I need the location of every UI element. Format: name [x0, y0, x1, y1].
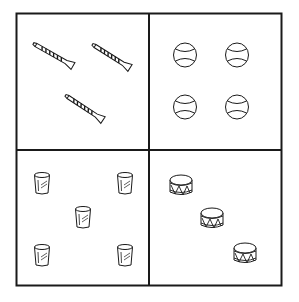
panel-flutes — [31, 40, 132, 123]
drum-icon — [170, 175, 192, 195]
panel-drums — [170, 175, 256, 263]
flute-icon — [63, 92, 105, 123]
ball-icon — [226, 95, 249, 119]
drum-icon — [234, 243, 256, 263]
ball-icon — [174, 95, 197, 119]
ball-icon — [226, 43, 249, 67]
cup-icon — [76, 207, 91, 229]
cup-icon — [35, 173, 50, 195]
panel-balls — [174, 43, 249, 119]
ball-icon — [174, 43, 197, 67]
cup-icon — [35, 245, 50, 267]
panel-cups — [35, 173, 133, 267]
flute-icon — [90, 41, 132, 71]
drum-icon — [201, 208, 223, 228]
cup-icon — [118, 173, 133, 195]
cup-icon — [118, 245, 133, 267]
flute-icon — [31, 40, 75, 69]
counting-grid-figure — [0, 0, 299, 302]
grid-svg — [0, 0, 299, 302]
